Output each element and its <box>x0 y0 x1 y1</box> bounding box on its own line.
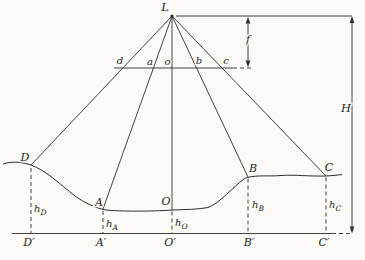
focal-arrow-up-icon <box>246 17 251 24</box>
label-datum-D-prime: D′ <box>22 236 35 249</box>
height-arrow-up-icon <box>350 16 355 23</box>
focal-arrow-down-icon <box>246 60 251 67</box>
ray-L-B <box>172 16 248 177</box>
label-datum-A-prime: A′ <box>95 236 107 249</box>
label-datum-O-prime: O′ <box>164 236 176 249</box>
label-height-H: H <box>340 101 352 115</box>
ray-L-A <box>103 16 172 209</box>
height-arrow-down-icon <box>350 226 355 233</box>
ray-L-D <box>31 16 172 165</box>
label-height-hB: hB <box>252 199 264 213</box>
label-image-point-b: b <box>196 55 202 66</box>
label-ground-A: A <box>94 196 103 209</box>
terrain-profile <box>3 162 342 211</box>
label-ground-D: D <box>20 151 30 164</box>
apex-point <box>170 14 173 17</box>
photogrammetry-diagram: L d a o b c f H D A O B C hD hA hO hB hC… <box>0 0 365 260</box>
label-height-hD: hD <box>34 203 46 217</box>
diagram-canvas: L d a o b c f H D A O B C hD hA hO hB hC… <box>0 0 365 260</box>
label-height-hO: hO <box>175 217 188 231</box>
label-image-point-o: o <box>164 56 170 67</box>
label-datum-B-prime: B′ <box>243 236 255 249</box>
label-image-point-c: c <box>223 55 229 66</box>
label-height-hA: hA <box>106 218 118 232</box>
label-apex-L: L <box>160 0 169 14</box>
label-ground-B: B <box>248 162 257 175</box>
label-ground-C: C <box>325 161 334 174</box>
label-height-hC: hC <box>329 199 341 213</box>
label-ground-O: O <box>161 195 170 208</box>
label-image-point-a: a <box>147 56 153 67</box>
label-datum-C-prime: C′ <box>319 236 330 249</box>
label-focal-f: f <box>245 33 252 46</box>
label-image-point-d: d <box>117 55 123 66</box>
